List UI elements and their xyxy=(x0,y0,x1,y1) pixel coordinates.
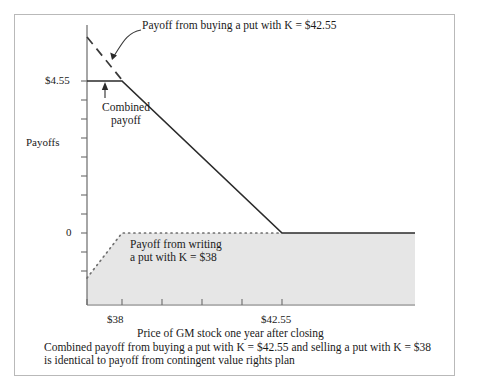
figure-caption: Combined payoff from buying a put with K… xyxy=(44,341,436,367)
payoff-diagram-figure: Payoffs $4.55 0 $38 $42.55 Price of GM s… xyxy=(0,0,480,389)
bought-put-payoff-line xyxy=(87,37,122,80)
annotation-write-put-line2: a put with K = $38 xyxy=(130,251,222,264)
annotation-combined-payoff: Combined payoff xyxy=(89,101,163,127)
y-axis-ticks xyxy=(81,81,87,271)
x-axis-title: Price of GM stock one year after closing xyxy=(137,327,324,340)
x-tick-label-4255: $42.55 xyxy=(261,313,291,325)
y-axis-title: Payoffs xyxy=(26,136,59,148)
x-tick-label-38: $38 xyxy=(107,313,124,325)
annotation-write-put: Payoff from writing a put with K = $38 xyxy=(130,238,222,264)
annotation-buy-put: Payoff from buying a put with K = $42.55 xyxy=(142,19,336,32)
y-tick-label-zero: 0 xyxy=(66,226,72,238)
y-tick-label-455: $4.55 xyxy=(45,74,70,86)
combined-annotation-arrowhead xyxy=(102,82,108,90)
buy-put-annotation-arrow-shaft xyxy=(114,30,141,56)
annotation-combined-payoff-line2: payoff xyxy=(89,114,163,127)
annotation-write-put-line1: Payoff from writing xyxy=(130,238,222,251)
annotation-combined-payoff-line1: Combined xyxy=(89,101,163,114)
